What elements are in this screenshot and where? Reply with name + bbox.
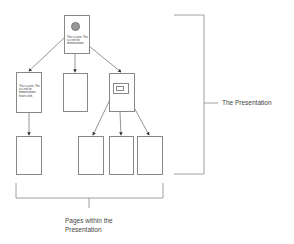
root-page-text: This is a text. This is a text for demon… <box>67 36 89 46</box>
arrow-root-to-left <box>29 38 64 71</box>
leaf-page-4 <box>137 136 163 175</box>
presentation-label: The Presentation <box>222 99 272 107</box>
leaf-page-2 <box>78 136 104 175</box>
image-map-hotspot <box>116 86 124 91</box>
child-page-right <box>109 73 135 112</box>
pages-label-line2: Presentation <box>65 226 102 234</box>
root-page: This is a text. This is a text for demon… <box>64 15 90 54</box>
pages-label-line1: Pages within the <box>65 217 113 225</box>
child-page-left: This is a text. This is a text for demon… <box>16 72 42 113</box>
leaf-page-3 <box>109 136 134 175</box>
presentation-bracket <box>174 15 204 174</box>
child-page-middle <box>63 73 88 112</box>
leaf-page-1 <box>16 136 42 175</box>
pages-bracket <box>16 183 163 198</box>
image-circle-icon <box>71 22 80 31</box>
child-left-text: This is a text. This is a text for demon… <box>19 85 41 98</box>
connector-layer <box>0 0 294 244</box>
image-map-frame <box>113 83 129 94</box>
